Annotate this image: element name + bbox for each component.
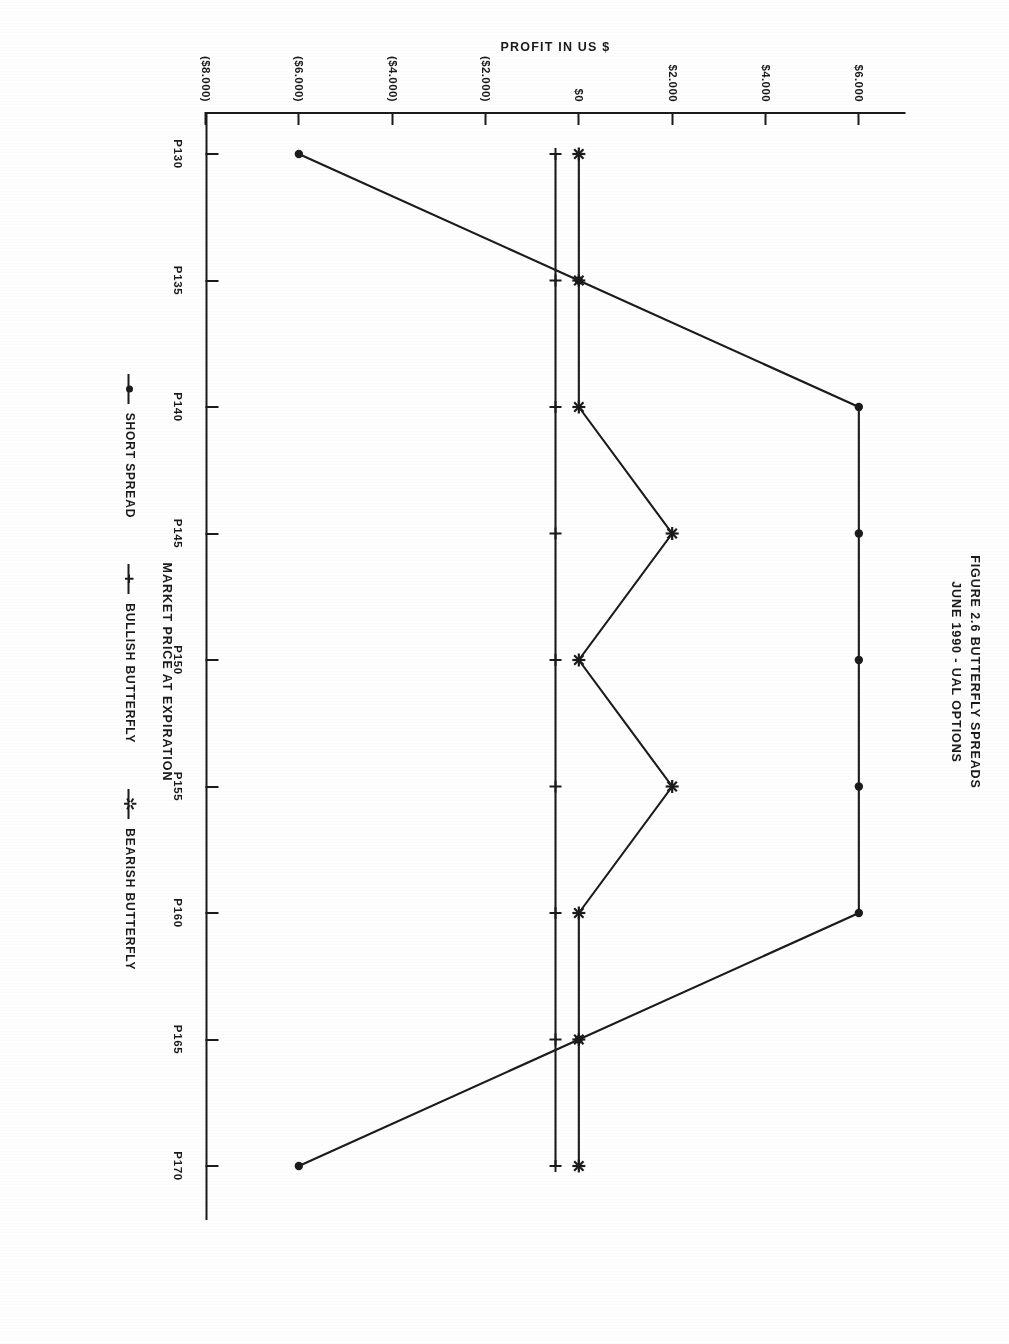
plus-cross-marker: [549, 275, 561, 287]
asterisk-star-marker: [665, 780, 678, 793]
y-axis-tick: [577, 112, 579, 125]
filled-dot-marker: [854, 656, 862, 664]
asterisk-star-marker: [572, 1160, 585, 1173]
plus-cross-marker: [549, 781, 561, 793]
plus-cross-marker: [549, 401, 561, 413]
x-axis-tick: [205, 1039, 218, 1041]
y-axis-tick-label: ($2.000): [479, 10, 491, 102]
y-axis-tick: [671, 112, 673, 125]
filled-dot-marker: [854, 529, 862, 537]
y-axis-tick: [297, 112, 299, 125]
figure-title-line-2: JUNE 1990 - UAL OPTIONS: [945, 0, 964, 1344]
asterisk-star-marker: [665, 527, 678, 540]
plus-cross-marker: [549, 148, 561, 160]
y-axis-tick-label: ($6.000): [292, 10, 304, 102]
asterisk-star-marker: [572, 907, 585, 920]
y-axis-tick: [391, 112, 393, 125]
y-axis-line: [205, 112, 905, 114]
x-axis-tick: [205, 1165, 218, 1167]
legend-item: SHORT SPREAD: [121, 374, 137, 519]
legend-label: SHORT SPREAD: [122, 413, 136, 519]
y-axis-tick-label: $6.000: [852, 10, 864, 102]
filled-dot-marker: [121, 374, 137, 404]
filled-dot-marker: [854, 782, 862, 790]
plus-cross-marker: [549, 1034, 561, 1046]
y-axis-tick-label: ($8.000): [199, 10, 211, 102]
plot-area: P130P135P140P145P150P155P160P165P170 $6.…: [205, 112, 905, 1220]
asterisk-star-marker: ✲: [121, 789, 137, 819]
figure: FIGURE 2.6 BUTTERFLY SPREADS JUNE 1990 -…: [0, 0, 1009, 1344]
asterisk-star-marker: [572, 654, 585, 667]
y-axis-tick-label: $2.000: [666, 10, 678, 102]
x-axis-tick: [205, 533, 218, 535]
filled-dot-marker: [854, 909, 862, 917]
asterisk-star-marker: [572, 274, 585, 287]
y-axis-title: PROFIT IN US $: [205, 40, 905, 54]
plus-cross-marker: [549, 528, 561, 540]
series-line: [578, 154, 671, 1166]
x-axis-line: [205, 112, 207, 1220]
legend-item: ✲BEARISH BUTTERFLY: [121, 789, 137, 970]
x-axis-tick: [205, 406, 218, 408]
x-axis-tick: [205, 280, 218, 282]
legend-glyph: ✲: [121, 797, 138, 812]
legend-item: +BULLISH BUTTERFLY: [121, 564, 137, 743]
series-layer: [205, 112, 905, 1220]
x-axis-tick: [205, 153, 218, 155]
y-axis-tick-label: $4.000: [759, 10, 771, 102]
x-axis-tick: [205, 912, 218, 914]
filled-dot-marker: [854, 403, 862, 411]
legend-label: BEARISH BUTTERFLY: [122, 828, 136, 970]
y-axis-tick: [484, 112, 486, 125]
y-axis-tick-label: ($4.000): [386, 10, 398, 102]
legend-glyph: +: [121, 574, 138, 585]
y-axis-tick: [764, 112, 766, 125]
rotated-figure-stage: FIGURE 2.6 BUTTERFLY SPREADS JUNE 1990 -…: [0, 0, 1009, 1344]
plus-cross-marker: [549, 907, 561, 919]
x-axis-tick: [205, 786, 218, 788]
plus-cross-marker: [549, 1160, 561, 1172]
series-bullish-butterfly: [549, 148, 561, 1172]
filled-dot-marker: [294, 1162, 302, 1170]
figure-title: FIGURE 2.6 BUTTERFLY SPREADS JUNE 1990 -…: [945, 0, 983, 1344]
asterisk-star-marker: [572, 401, 585, 414]
x-axis-tick: [205, 659, 218, 661]
asterisk-star-marker: [572, 1033, 585, 1046]
x-axis-title: MARKET PRICE AT EXPIRATION: [159, 0, 173, 1344]
y-axis-tick: [204, 112, 206, 125]
y-axis-tick: [857, 112, 859, 125]
filled-dot-marker: [294, 150, 302, 158]
legend-label: BULLISH BUTTERFLY: [122, 603, 136, 743]
asterisk-star-marker: [572, 148, 585, 161]
legend-dot: [126, 385, 133, 392]
plus-cross-marker: +: [121, 564, 137, 594]
figure-title-line-1: FIGURE 2.6 BUTTERFLY SPREADS: [964, 0, 983, 1344]
y-axis-tick-label: $0: [572, 10, 584, 102]
legend: SHORT SPREAD+BULLISH BUTTERFLY✲BEARISH B…: [121, 0, 137, 1344]
plus-cross-marker: [549, 654, 561, 666]
